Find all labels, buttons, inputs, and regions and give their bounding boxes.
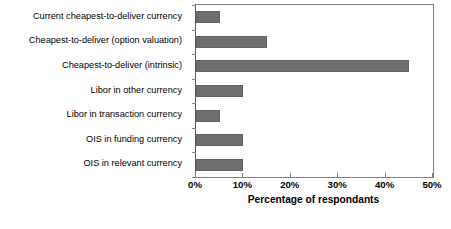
category-axis-labels: Current cheapest-to-deliver currency Che… (0, 4, 188, 176)
bar (196, 11, 220, 23)
x-axis-title: Percentage of respondants (195, 194, 432, 205)
bars-layer (196, 5, 433, 177)
bar-row (196, 30, 433, 55)
x-axis-tick (242, 173, 243, 177)
bar (196, 159, 243, 171)
category-label-row: OIS in relevant currency (0, 151, 188, 176)
x-axis-tick-label: 10% (233, 179, 252, 190)
category-label-row: Cheapest-to-deliver (option valuation) (0, 29, 188, 54)
x-axis-tick (432, 173, 433, 177)
bar (196, 110, 220, 122)
category-label: Cheapest-to-deliver (option valuation) (29, 35, 182, 46)
category-label-row: Current cheapest-to-deliver currency (0, 4, 188, 29)
y-axis-tick (192, 30, 196, 31)
x-axis-tick-label: 20% (280, 179, 299, 190)
category-label: Cheapest-to-deliver (intrinsic) (62, 60, 182, 71)
y-axis-tick (192, 152, 196, 153)
category-label: OIS in funding currency (86, 134, 182, 145)
y-axis-tick (192, 79, 196, 80)
category-label-row: Cheapest-to-deliver (intrinsic) (0, 53, 188, 78)
y-axis-tick (192, 54, 196, 55)
x-axis-tick-label: 40% (375, 179, 394, 190)
bar-row (196, 103, 433, 128)
category-label: Current cheapest-to-deliver currency (33, 11, 182, 22)
bar (196, 85, 243, 97)
category-label-row: Libor in transaction currency (0, 102, 188, 127)
bar-row (196, 79, 433, 104)
x-axis-tick-label: 0% (188, 179, 202, 190)
bar (196, 60, 409, 72)
y-axis-tick (192, 128, 196, 129)
bar-row (196, 54, 433, 79)
bar-row (196, 128, 433, 153)
category-label: Libor in transaction currency (67, 109, 182, 120)
category-label-row: OIS in funding currency (0, 127, 188, 152)
bar (196, 134, 243, 146)
bar-row (196, 152, 433, 177)
category-label: OIS in relevant currency (83, 158, 182, 169)
x-axis-tick-label: 30% (328, 179, 347, 190)
y-axis-tick (192, 5, 196, 6)
category-label: Libor in other currency (91, 85, 182, 96)
x-axis-tick (337, 173, 338, 177)
y-axis-tick (192, 103, 196, 104)
x-axis-tick-label: 50% (422, 179, 441, 190)
x-axis-tick (290, 173, 291, 177)
x-axis-tick (195, 173, 196, 177)
bar (196, 36, 267, 48)
plot-area (195, 4, 434, 178)
bar-row (196, 5, 433, 30)
x-axis-tick (385, 173, 386, 177)
category-label-row: Libor in other currency (0, 78, 188, 103)
bar-chart: Current cheapest-to-deliver currency Che… (0, 0, 451, 229)
y-axis-tick (192, 177, 196, 178)
